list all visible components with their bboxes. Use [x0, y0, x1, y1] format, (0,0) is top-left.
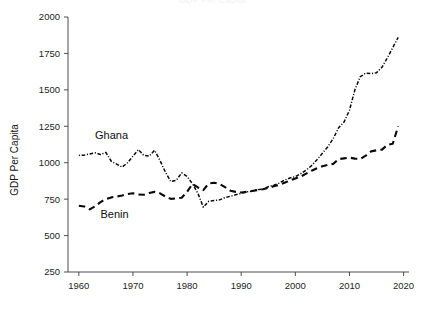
- series-label-benin: Benin: [100, 208, 128, 220]
- x-tick-label: 1960: [68, 280, 89, 291]
- y-tick-label: 1500: [39, 84, 60, 95]
- x-tick-label: 2020: [393, 280, 414, 291]
- y-axis-ticks: 25050075010001250150017502000: [39, 11, 68, 277]
- x-tick-label: 2010: [339, 280, 360, 291]
- y-tick-label: 1000: [39, 157, 60, 168]
- y-tick-label: 1250: [39, 121, 60, 132]
- y-tick-label: 250: [44, 266, 60, 277]
- y-tick-label: 750: [44, 194, 60, 205]
- y-tick-label: 1750: [39, 48, 60, 59]
- chart-figure: GDP Per Capita 2505007501000125015001750…: [0, 0, 425, 313]
- y-tick-label: 500: [44, 230, 60, 241]
- line-chart-plot: 25050075010001250150017502000 1960197019…: [0, 0, 425, 313]
- x-tick-label: 2000: [285, 280, 306, 291]
- x-tick-label: 1990: [231, 280, 252, 291]
- series-line-ghana: [79, 37, 398, 207]
- x-tick-label: 1980: [177, 280, 198, 291]
- y-axis-title: GDP Per Capita: [9, 124, 20, 196]
- series-label-ghana: Ghana: [95, 129, 129, 141]
- x-axis-ticks: 1960197019801990200020102020: [68, 272, 414, 291]
- x-tick-label: 1970: [122, 280, 143, 291]
- y-tick-label: 2000: [39, 11, 60, 22]
